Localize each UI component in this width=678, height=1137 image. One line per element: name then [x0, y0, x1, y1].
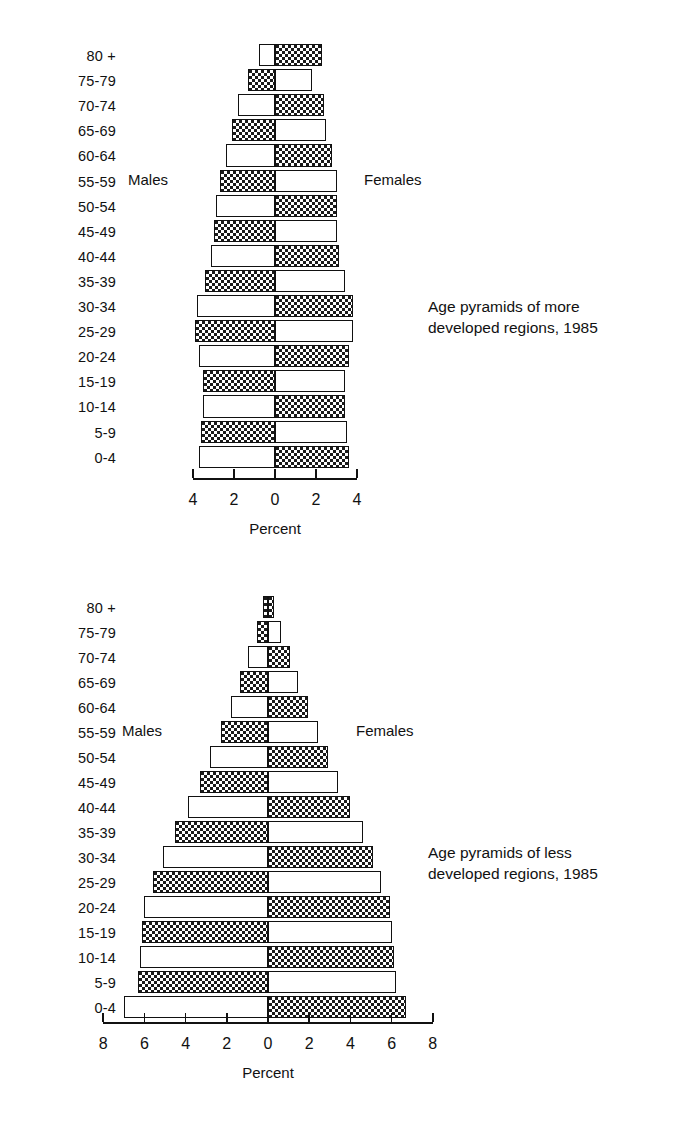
bar-male-80+: [259, 44, 275, 66]
bar-male-7579: [248, 69, 275, 91]
bar-male-3539: [205, 270, 275, 292]
bar-female-4044: [268, 796, 350, 818]
axis-baseline: [103, 1022, 433, 1024]
chart-less-developed-regions: 80 +75-7970-7465-6960-6455-5950-5445-494…: [0, 560, 678, 1137]
pyramid-row: [0, 119, 678, 141]
axis-tick: [308, 1013, 310, 1022]
pyramid-row: [0, 69, 678, 91]
bar-female-4549: [268, 771, 338, 793]
bar-female-3034: [268, 846, 373, 868]
pyramid-row: [0, 971, 678, 993]
bar-female-59: [268, 971, 396, 993]
pyramid-row: [0, 370, 678, 392]
bar-female-04: [268, 996, 406, 1018]
bar-male-1014: [140, 946, 268, 968]
pyramid-row: [0, 245, 678, 267]
pyramid-row: [0, 646, 678, 668]
bar-male-7579: [257, 621, 268, 643]
bar-male-4549: [214, 220, 276, 242]
females-label-more: Females: [364, 172, 422, 187]
pyramid-row: [0, 696, 678, 718]
bar-male-59: [201, 421, 275, 443]
axis-tick: [102, 1013, 104, 1022]
bar-female-6064: [268, 696, 308, 718]
bar-male-1519: [203, 370, 275, 392]
bar-female-1519: [268, 921, 392, 943]
bar-female-7074: [268, 646, 290, 668]
axis-tick-label: 4: [181, 1036, 190, 1052]
pyramid-row: [0, 446, 678, 468]
males-label-more: Males: [128, 172, 168, 187]
bar-female-4549: [275, 220, 337, 242]
bar-male-4549: [200, 771, 268, 793]
axis-tick: [432, 1013, 434, 1022]
bar-male-6064: [231, 696, 268, 718]
pyramid-row: [0, 596, 678, 618]
bar-male-2024: [199, 345, 275, 367]
bar-male-5559: [220, 170, 275, 192]
pyramid-row: [0, 721, 678, 743]
bar-male-1014: [203, 395, 275, 417]
pyramid-row: [0, 94, 678, 116]
pyramid-row: [0, 671, 678, 693]
axis-tick: [192, 469, 194, 478]
bar-male-7074: [238, 94, 275, 116]
axis-tick-label: 4: [189, 492, 198, 508]
bar-male-3034: [197, 295, 275, 317]
axis-tick-label: 2: [312, 492, 321, 508]
bar-male-59: [138, 971, 268, 993]
bar-female-3539: [275, 270, 345, 292]
axis-tick-label: 2: [230, 492, 239, 508]
bar-female-2024: [275, 345, 349, 367]
bar-female-5054: [275, 195, 337, 217]
females-label-less: Females: [356, 723, 414, 738]
bar-male-1519: [142, 921, 268, 943]
bar-male-5559: [221, 721, 268, 743]
plot-area-less: [0, 560, 678, 1041]
bar-male-5054: [210, 746, 268, 768]
axis-title-percent: Percent: [249, 521, 301, 536]
bar-female-3034: [275, 295, 353, 317]
axis-title-percent: Percent: [242, 1065, 294, 1080]
bar-female-5559: [275, 170, 337, 192]
bar-female-2529: [268, 871, 381, 893]
bar-male-4044: [211, 245, 275, 267]
bar-female-04: [275, 446, 349, 468]
bar-female-1519: [275, 370, 345, 392]
bar-male-7074: [248, 646, 268, 668]
pyramid-row: [0, 44, 678, 66]
axis-tick-label: 0: [264, 1036, 273, 1052]
bar-female-3539: [268, 821, 363, 843]
axis-tick-label: 4: [346, 1036, 355, 1052]
bar-female-7579: [275, 69, 312, 91]
pyramid-row: [0, 195, 678, 217]
bar-male-6064: [226, 144, 275, 166]
bar-male-04: [199, 446, 275, 468]
bar-female-5054: [268, 746, 328, 768]
axis-tick-label: 2: [222, 1036, 231, 1052]
pyramid-row: [0, 771, 678, 793]
bar-female-6569: [275, 119, 326, 141]
chart-more-developed-regions: 80 +75-7970-7465-6960-6455-5950-5445-494…: [0, 0, 678, 560]
bar-female-7579: [268, 621, 281, 643]
axis-tick: [267, 1013, 269, 1022]
bar-female-80+: [275, 44, 322, 66]
bar-male-2529: [153, 871, 268, 893]
bar-male-6569: [232, 119, 275, 141]
bar-female-1014: [268, 946, 394, 968]
bar-female-2024: [268, 896, 390, 918]
axis-tick-label: 0: [271, 492, 280, 508]
pyramid-row: [0, 220, 678, 242]
axis-tick: [315, 469, 317, 478]
axis-baseline: [193, 478, 357, 480]
axis-tick: [356, 469, 358, 478]
axis-tick: [144, 1013, 146, 1022]
axis-tick: [185, 1013, 187, 1022]
bar-female-1014: [275, 395, 345, 417]
bar-female-7074: [275, 94, 324, 116]
axis-tick-label: 6: [387, 1036, 396, 1052]
bar-female-4044: [275, 245, 339, 267]
axis-tick-label: 2: [305, 1036, 314, 1052]
pyramid-row: [0, 621, 678, 643]
pyramid-row: [0, 746, 678, 768]
